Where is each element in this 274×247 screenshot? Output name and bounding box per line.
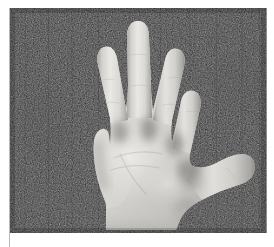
hand-photograph-canvas — [10, 8, 266, 233]
photo-plate-right-edge — [266, 8, 267, 233]
hand-photograph — [10, 8, 266, 233]
photo-grain — [10, 8, 266, 233]
figure-caption-area — [10, 234, 266, 247]
photo-page — [0, 0, 274, 247]
